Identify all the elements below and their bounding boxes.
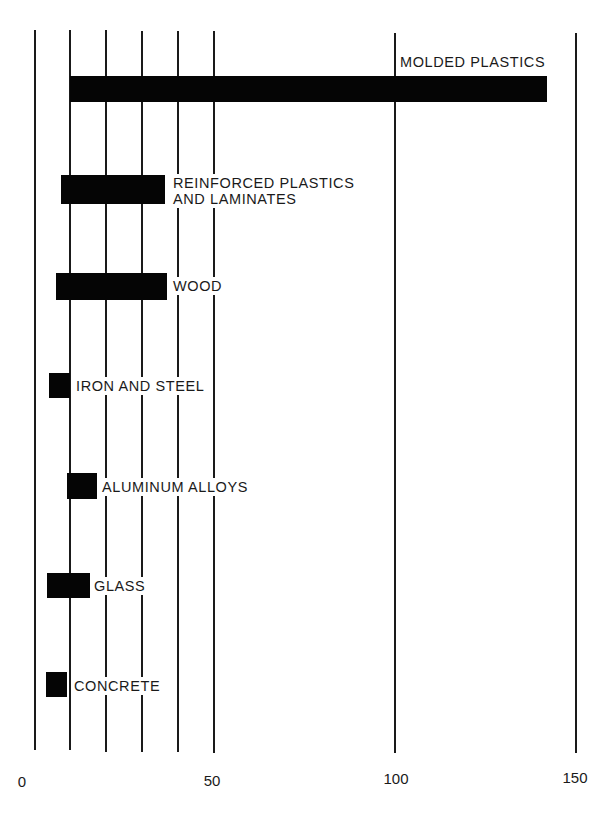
bar-concrete	[46, 672, 67, 697]
x-tick-50: 50	[204, 772, 221, 789]
bar-iron-and-steel	[49, 373, 70, 398]
range-bar-chart: MOLDED PLASTICS REINFORCED PLASTICS AND …	[0, 0, 601, 815]
bar-glass	[47, 573, 90, 598]
label-glass: GLASS	[92, 577, 147, 595]
bar-aluminum-alloys	[67, 473, 97, 499]
bar-molded-plastics	[70, 76, 547, 102]
label-reinforced-plastics: REINFORCED PLASTICS AND LAMINATES	[171, 174, 356, 208]
label-reinforced-line2: AND LAMINATES	[173, 191, 354, 207]
x-tick-100: 100	[383, 770, 408, 787]
bar-reinforced-plastics	[61, 175, 165, 204]
x-tick-150: 150	[562, 769, 587, 786]
gridline-0	[34, 30, 36, 750]
label-iron-and-steel: IRON AND STEEL	[74, 377, 206, 395]
label-reinforced-line1: REINFORCED PLASTICS	[173, 175, 354, 191]
label-wood: WOOD	[171, 277, 224, 295]
label-concrete: CONCRETE	[72, 677, 162, 695]
label-molded-plastics: MOLDED PLASTICS	[398, 53, 547, 71]
gridline-50	[213, 31, 215, 753]
label-aluminum-alloys: ALUMINUM ALLOYS	[100, 478, 250, 496]
gridline-150	[575, 33, 577, 753]
x-tick-0: 0	[18, 773, 26, 790]
gridline-100	[394, 33, 396, 753]
bar-wood	[56, 273, 167, 300]
